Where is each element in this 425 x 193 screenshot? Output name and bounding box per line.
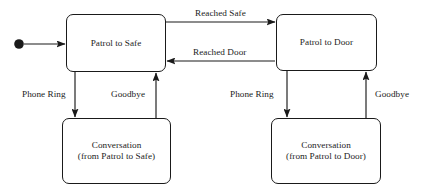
transition-label-goodbye-left: Goodbye	[110, 89, 146, 99]
initial-state-dot	[14, 39, 24, 49]
state-label-line2: (from Patrol to Safe)	[78, 151, 155, 162]
state-conversation-from-patrol-to-safe[interactable]: Conversation (from Patrol to Safe)	[62, 118, 171, 184]
state-label-line1: Patrol to Safe	[91, 38, 142, 49]
state-label-line1: Conversation	[92, 140, 142, 151]
state-patrol-to-safe[interactable]: Patrol to Safe	[66, 14, 166, 72]
state-label-line1: Conversation	[301, 140, 351, 151]
state-patrol-to-door[interactable]: Patrol to Door	[276, 14, 377, 71]
transition-label-reached-safe: Reached Safe	[194, 8, 247, 18]
state-machine-diagram: Patrol to Safe Patrol to Door Conversati…	[0, 0, 425, 193]
state-label-line1: Patrol to Door	[300, 37, 353, 48]
transition-label-reached-door: Reached Door	[192, 47, 247, 57]
state-label-line2: (from Patrol to Door)	[286, 151, 366, 162]
transition-label-phone-ring-right: Phone Ring	[229, 89, 275, 99]
transition-label-goodbye-right: Goodbye	[374, 89, 410, 99]
state-conversation-from-patrol-to-door[interactable]: Conversation (from Patrol to Door)	[271, 118, 381, 184]
transition-label-phone-ring-left: Phone Ring	[21, 89, 67, 99]
